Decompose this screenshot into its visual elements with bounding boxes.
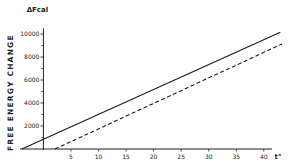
series-line-solid: [22, 32, 280, 149]
x-tick-label: 5: [69, 153, 73, 160]
x-tick-label: 10: [95, 153, 103, 160]
series-group: [22, 32, 282, 149]
x-axis-label: t°: [275, 153, 282, 161]
y-tick-label: 4000: [24, 99, 39, 106]
y-tick-label: 10000: [20, 30, 39, 37]
y-unit-label: ΔFcal: [27, 6, 48, 14]
y-tick-label: 6000: [24, 76, 39, 83]
x-tick-label: 40: [260, 153, 268, 160]
x-tick-label: 20: [150, 153, 158, 160]
x-tick-label: 35: [232, 153, 240, 160]
x-tick-label: 15: [122, 153, 130, 160]
chart: 510152025303540t°200040006000800010000ΔF…: [0, 0, 296, 166]
y-axis-title: FREE ENERGY CHANGE: [6, 34, 15, 151]
y-tick-label: 2000: [24, 122, 39, 129]
x-tick-label: 30: [205, 153, 213, 160]
x-tick-label: 25: [177, 153, 185, 160]
y-tick-label: 8000: [24, 53, 39, 60]
series-line-dashed: [55, 44, 282, 149]
